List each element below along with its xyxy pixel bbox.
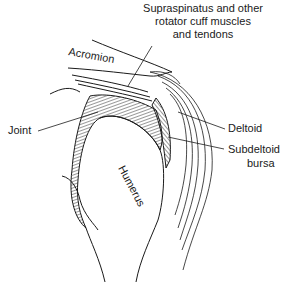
deltoid-muscle	[150, 72, 212, 270]
label-deltoid: Deltoid	[228, 122, 262, 135]
diagram-drawing: Humerus Acromion	[0, 0, 292, 282]
label-supraspinatus: Supraspinatus and other rotator cuff mus…	[108, 2, 292, 41]
glenoid	[50, 88, 80, 94]
shoulder-diagram: Humerus Acromion	[0, 0, 292, 282]
joint-cartilage	[71, 95, 162, 228]
label-supraspinatus-line1: Supraspinatus and other	[108, 2, 292, 15]
label-joint: Joint	[8, 124, 31, 137]
label-subdeltoid-line1: Subdeltoid	[228, 143, 280, 156]
label-acromion: Acromion	[68, 45, 116, 65]
label-humerus: Humerus	[116, 163, 148, 208]
leader-lines	[38, 46, 225, 149]
label-subdeltoid-line2: bursa	[247, 157, 275, 170]
label-supraspinatus-line2: rotator cuff muscles	[108, 15, 292, 28]
label-supraspinatus-line3: and tendons	[108, 28, 292, 41]
